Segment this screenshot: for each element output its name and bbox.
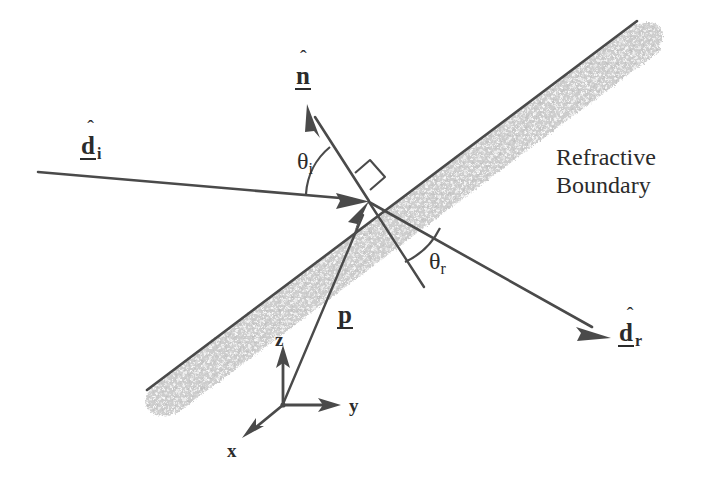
- label-incident-vector: ˆ di: [80, 133, 101, 162]
- normal-vector-subscript: [311, 75, 312, 92]
- refractive-boundary-slab: [145, 21, 663, 416]
- label-x-axis: x: [227, 441, 237, 460]
- label-angle-of-incidence: θi: [297, 149, 313, 177]
- label-z-axis: z: [275, 330, 283, 349]
- refraction-diagram: ˆ di ˆ n ˆ dr p θi θr z y x Refractive: [0, 0, 708, 493]
- incident-vector-base: d: [80, 133, 96, 160]
- normal-vector-base: n: [295, 63, 311, 90]
- label-refracted-vector: ˆ dr: [618, 320, 642, 349]
- position-vector-base: p: [337, 302, 353, 329]
- refracted-ray-arrowhead: [576, 327, 611, 341]
- x-axis-arrowhead: [242, 418, 264, 438]
- boundary-caption-line1: Refractive: [556, 143, 656, 171]
- incident-vector-subscript: i: [96, 145, 101, 162]
- label-position-vector: p: [337, 302, 354, 331]
- diagram-canvas: [0, 0, 708, 493]
- position-vector-subscript: [353, 314, 354, 331]
- label-y-axis: y: [349, 396, 359, 415]
- theta-i-subscript: i: [309, 160, 313, 177]
- theta-r-subscript: r: [441, 260, 446, 277]
- label-normal-vector: ˆ n: [295, 63, 312, 92]
- boundary-caption: Refractive Boundary: [556, 143, 656, 200]
- coordinate-axes: [242, 345, 341, 438]
- refracted-ray: [369, 202, 611, 341]
- theta-r-symbol: θ: [429, 248, 441, 274]
- boundary-caption-line2: Boundary: [556, 171, 656, 199]
- theta-i-symbol: θ: [297, 148, 309, 174]
- incident-ray: [38, 172, 369, 209]
- x-axis-line: [255, 405, 283, 428]
- label-angle-of-refraction: θr: [429, 249, 446, 277]
- axes-origin: [280, 402, 285, 407]
- refracted-vector-subscript: r: [634, 332, 642, 349]
- normal-vector: [305, 104, 369, 201]
- boundary-surface-line: [147, 21, 637, 390]
- refracted-vector-base: d: [618, 320, 634, 347]
